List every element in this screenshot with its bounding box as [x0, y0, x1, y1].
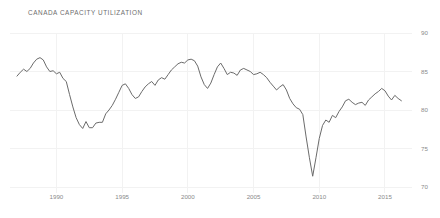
capacity-utilization-line-chart: 7075808590 199019952000200520102015: [0, 0, 440, 218]
x-tick-label: 1995: [115, 193, 129, 200]
x-tick-label: 2010: [312, 193, 326, 200]
chart-card: CANADA CAPACITY UTILIZATION 7075808590 1…: [0, 0, 440, 218]
series-line: [17, 58, 401, 177]
y-tick-label: 70: [421, 183, 428, 190]
horizontal-gridlines: [10, 33, 412, 187]
series-group: [17, 58, 401, 177]
x-tick-label: 2015: [378, 193, 392, 200]
x-tick-label: 2005: [247, 193, 261, 200]
y-tick-label: 80: [421, 106, 428, 113]
x-tick-label: 1990: [50, 193, 64, 200]
y-axis-tick-labels: 7075808590: [421, 29, 428, 190]
y-tick-label: 75: [421, 145, 428, 152]
x-tick-label: 2000: [181, 193, 195, 200]
y-tick-label: 85: [421, 68, 428, 75]
y-tick-label: 90: [421, 29, 428, 36]
x-axis-tick-labels: 199019952000200520102015: [50, 193, 393, 200]
vertical-gridlines: [56, 33, 385, 193]
